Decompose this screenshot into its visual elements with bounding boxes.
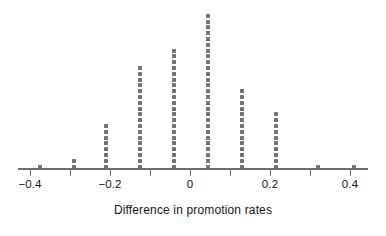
- data-dot: [172, 141, 176, 145]
- data-dot: [104, 124, 108, 128]
- x-axis-tick-label: 0.4: [330, 178, 370, 190]
- data-dot: [274, 124, 278, 128]
- x-axis-title: Difference in promotion rates: [0, 203, 386, 217]
- data-dot: [172, 72, 176, 76]
- data-dot: [138, 83, 142, 87]
- x-axis-tick-label: 0.2: [250, 178, 290, 190]
- data-dot: [172, 101, 176, 105]
- x-axis-tick-label: 0: [170, 178, 210, 190]
- data-dot: [104, 130, 108, 134]
- data-dot: [206, 130, 210, 134]
- data-dot: [240, 112, 244, 116]
- data-dot: [240, 136, 244, 140]
- data-dot: [240, 118, 244, 122]
- data-dot: [138, 66, 142, 70]
- data-dot: [138, 141, 142, 145]
- data-dot: [206, 112, 210, 116]
- data-dot: [274, 159, 278, 163]
- data-dot: [206, 107, 210, 111]
- data-dot: [240, 147, 244, 151]
- data-dot: [206, 136, 210, 140]
- data-dot: [172, 130, 176, 134]
- x-axis-tick-label: −0.4: [10, 178, 50, 190]
- data-dot: [240, 159, 244, 163]
- data-dot: [138, 112, 142, 116]
- data-dot: [206, 95, 210, 99]
- data-dot: [172, 153, 176, 157]
- data-dot: [206, 141, 210, 145]
- data-dot: [206, 25, 210, 29]
- x-axis-tick: [270, 170, 271, 176]
- data-dot: [206, 37, 210, 41]
- data-dot: [274, 147, 278, 151]
- data-dot: [206, 54, 210, 58]
- data-dot: [240, 107, 244, 111]
- data-dot: [172, 147, 176, 151]
- data-dot: [172, 112, 176, 116]
- data-dot: [138, 136, 142, 140]
- x-axis-tick: [110, 170, 111, 176]
- data-dot: [274, 153, 278, 157]
- data-dot: [172, 49, 176, 53]
- data-dot: [172, 66, 176, 70]
- data-dot: [138, 101, 142, 105]
- x-axis-tick: [310, 170, 311, 176]
- data-dot: [104, 141, 108, 145]
- data-dot: [138, 118, 142, 122]
- data-dot: [138, 153, 142, 157]
- data-dot: [104, 136, 108, 140]
- data-dot: [172, 60, 176, 64]
- data-dot: [172, 107, 176, 111]
- data-dot: [104, 153, 108, 157]
- data-dot: [240, 153, 244, 157]
- data-dot: [206, 89, 210, 93]
- data-dot: [240, 101, 244, 105]
- data-dot: [274, 136, 278, 140]
- data-dot: [274, 141, 278, 145]
- data-dot: [104, 147, 108, 151]
- data-dot: [138, 147, 142, 151]
- data-dot: [138, 124, 142, 128]
- x-axis-tick: [150, 170, 151, 176]
- dot-plot-figure: −0.4−0.200.20.4 Difference in promotion …: [0, 0, 386, 236]
- data-dot: [206, 159, 210, 163]
- data-dot: [138, 72, 142, 76]
- data-dot: [172, 136, 176, 140]
- x-axis-tick: [70, 170, 71, 176]
- data-dot: [206, 60, 210, 64]
- data-dot: [274, 130, 278, 134]
- x-axis-tick: [190, 170, 191, 176]
- data-dot: [138, 95, 142, 99]
- data-dot: [172, 54, 176, 58]
- data-dot: [172, 159, 176, 163]
- data-dot: [274, 112, 278, 116]
- data-dot: [138, 107, 142, 111]
- data-dot: [206, 147, 210, 151]
- data-dot: [172, 83, 176, 87]
- data-dot: [138, 89, 142, 93]
- data-dot: [274, 118, 278, 122]
- data-dot: [206, 14, 210, 18]
- data-dot: [138, 159, 142, 163]
- data-dot: [172, 95, 176, 99]
- data-dot: [206, 118, 210, 122]
- data-dot: [172, 89, 176, 93]
- data-dot: [72, 159, 76, 163]
- data-dot: [206, 49, 210, 53]
- x-axis-tick-label: −0.2: [90, 178, 130, 190]
- x-axis-tick: [350, 170, 351, 176]
- data-dot: [240, 89, 244, 93]
- data-dot: [206, 101, 210, 105]
- data-dot: [172, 78, 176, 82]
- data-dot: [206, 20, 210, 24]
- data-dot: [206, 66, 210, 70]
- data-dot: [206, 78, 210, 82]
- data-dot: [206, 72, 210, 76]
- data-dot: [206, 83, 210, 87]
- data-dot: [240, 95, 244, 99]
- data-dot: [138, 78, 142, 82]
- dot-stack-layer: [0, 0, 386, 236]
- data-dot: [172, 118, 176, 122]
- x-axis-tick: [230, 170, 231, 176]
- data-dot: [206, 43, 210, 47]
